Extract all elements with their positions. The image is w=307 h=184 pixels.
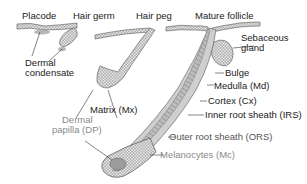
label-cortex: Cortex (Cx) (208, 96, 257, 106)
label-sebaceous-gland-line2: gland (241, 43, 264, 53)
diagram-artwork (0, 0, 307, 184)
label-matrix: Matrix (Mx) (90, 105, 138, 115)
label-dermal-papilla-line2: papilla (DP) (52, 125, 102, 135)
stage-label-hair-germ: Hair germ (73, 11, 115, 21)
stage-label-placode: Placode (22, 11, 56, 21)
label-melanocytes: Melanocytes (Mc) (160, 150, 235, 160)
stage-label-mature-follicle: Mature follicle (195, 11, 254, 21)
label-outer-root-sheath: Outer root sheath (ORS) (169, 132, 272, 142)
stage-label-hair-peg: Hair peg (136, 11, 172, 21)
label-bulge: Bulge (225, 68, 249, 78)
hair-follicle-development-diagram: Placode Hair germ Hair peg Mature follic… (0, 0, 307, 184)
label-dermal-condensate-line2: condensate (25, 68, 74, 78)
label-inner-root-sheath: Inner root sheath (IRS) (205, 110, 302, 120)
label-medulla: Medulla (Md) (214, 81, 269, 91)
